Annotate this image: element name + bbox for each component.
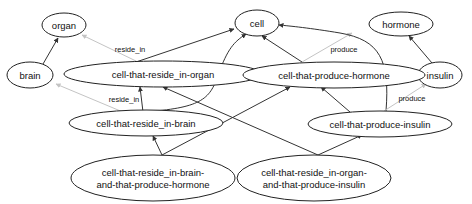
edge-reside-organ-to-cell [136, 29, 234, 62]
node-cell-that-reside-in-brain[interactable]: cell-that-reside_in-brain [69, 110, 223, 136]
edge-brain-hormone-to-reside-brain [153, 136, 162, 155]
node-brain[interactable]: brain [7, 62, 53, 88]
edge-produce-insulin-to-produce-hormone [321, 87, 350, 112]
edge-reside-brain-to-organ-cell [140, 87, 143, 112]
node-label-line1: cell-that-reside_in-organ- [261, 167, 367, 178]
node-label: cell-that-produce-insulin [330, 119, 431, 130]
node-label: cell-that-produce-hormone [278, 70, 389, 81]
edge-produce-hormone-to-cell [262, 36, 302, 62]
node-cell-that-produce-hormone[interactable]: cell-that-produce-hormone [243, 62, 425, 88]
node-organ[interactable]: organ [42, 13, 86, 37]
node-label: brain [19, 70, 40, 81]
node-cell[interactable]: cell [235, 10, 279, 36]
node-cell-that-produce-insulin[interactable]: cell-that-produce-insulin [308, 111, 452, 137]
node-label: cell-that-reside_in-brain [96, 118, 195, 129]
edge-brain-to-organ [43, 38, 58, 64]
node-label: hormone [382, 19, 420, 30]
node-cell-that-reside-in-organ-and-that-produce-insulin[interactable]: cell-that-reside_in-organ- and-that-prod… [237, 155, 391, 201]
node-hormone[interactable]: hormone [369, 12, 433, 36]
edge-label-reside-in-brain: reside_in [109, 95, 139, 104]
edge-label-reside-in-organ: reside_in [115, 45, 145, 54]
edge-label-produce-hormone: produce [330, 45, 357, 54]
node-label-line2: and-that-produce-insulin [263, 179, 365, 190]
edge-label-produce-insulin: produce [398, 94, 425, 103]
ontology-graph: reside_in reside_in produce produce orga… [0, 0, 472, 204]
node-label-line2: and-that-produce-hormone [96, 179, 209, 190]
node-label-line1: cell-that-reside_in-brain- [102, 167, 204, 178]
node-cell-that-reside-in-organ[interactable]: cell-that-reside_in-organ [64, 61, 262, 87]
node-label: organ [52, 20, 76, 31]
node-label: insulin [427, 70, 454, 81]
node-label: cell [250, 18, 264, 29]
node-cell-that-reside-in-brain-and-that-produce-hormone[interactable]: cell-that-reside_in-brain- and-that-prod… [71, 155, 235, 201]
edge-organ-insulin-to-produce-insulin [318, 135, 362, 155]
node-label: cell-that-reside_in-organ [112, 69, 214, 80]
edge-insulin-to-hormone [409, 36, 432, 63]
